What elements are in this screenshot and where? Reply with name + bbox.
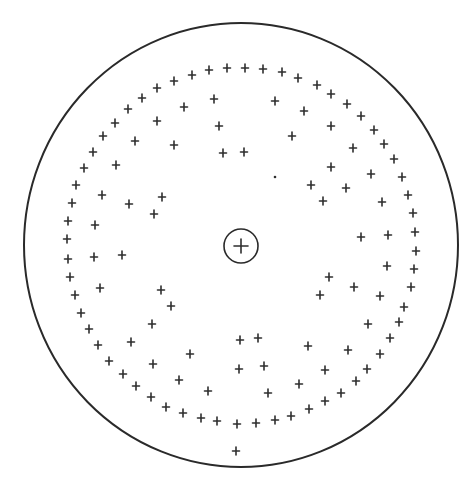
cross-icon	[132, 137, 139, 145]
cross-icon	[408, 283, 415, 291]
cross-icon	[384, 262, 391, 270]
cross-icon	[301, 107, 308, 115]
cross-icon	[413, 247, 420, 255]
cross-icon	[151, 210, 158, 218]
cross-icon	[149, 320, 156, 328]
cross-icon	[365, 320, 372, 328]
cross-icon	[100, 132, 107, 140]
cross-icon	[328, 122, 335, 130]
cross-icon	[387, 334, 394, 342]
circular-diagram	[0, 0, 467, 488]
cross-icon	[343, 184, 350, 192]
cross-icon	[159, 193, 166, 201]
cross-icon	[308, 181, 315, 189]
cross-icon	[171, 77, 178, 85]
cross-icon	[180, 409, 187, 417]
cross-icon	[95, 341, 102, 349]
cross-icon	[106, 357, 113, 365]
cross-icon	[237, 336, 244, 344]
cross-icon	[305, 342, 312, 350]
dot-markers	[274, 176, 277, 179]
cross-icon	[358, 112, 365, 120]
cross-icon	[255, 334, 262, 342]
cross-icon	[351, 283, 358, 291]
cross-icon	[364, 365, 371, 373]
cross-icon	[410, 209, 417, 217]
cross-icon	[272, 416, 279, 424]
cross-icon	[314, 81, 321, 89]
cross-icon	[72, 291, 79, 299]
cross-icon	[344, 100, 351, 108]
cross-icon	[150, 360, 157, 368]
cross-icon	[353, 377, 360, 385]
cross-icon	[112, 119, 119, 127]
cross-icon	[391, 155, 398, 163]
cross-icon	[345, 346, 352, 354]
cross-icon	[224, 64, 231, 72]
cross-icon	[154, 84, 161, 92]
cross-icon	[126, 200, 133, 208]
cross-icon	[97, 284, 104, 292]
cross-icon	[242, 64, 249, 72]
cross-icon	[338, 389, 345, 397]
cross-icon	[128, 338, 135, 346]
cross-icon	[67, 273, 74, 281]
cross-icon	[181, 103, 188, 111]
cross-icon	[168, 302, 175, 310]
cross-icon	[211, 95, 218, 103]
cross-icon	[385, 231, 392, 239]
cross-icon	[381, 140, 388, 148]
cross-icon	[358, 233, 365, 241]
cross-icon	[189, 71, 196, 79]
cross-icon	[405, 191, 412, 199]
cross-icon	[120, 370, 127, 378]
cross-icon	[368, 170, 375, 178]
cross-icon	[317, 291, 324, 299]
cross-icon	[220, 149, 227, 157]
cross-icon	[377, 292, 384, 300]
cross-icon	[377, 350, 384, 358]
cross-icon	[236, 365, 243, 373]
cross-icon	[205, 387, 212, 395]
cross-icon	[99, 191, 106, 199]
cross-icon	[90, 148, 97, 156]
isolated-markers	[233, 447, 240, 455]
center-marker	[224, 229, 258, 263]
cross-icon	[81, 164, 88, 172]
cross-icon	[401, 303, 408, 311]
dot-icon	[274, 176, 277, 179]
cross-icon	[113, 161, 120, 169]
cross-icon	[328, 163, 335, 171]
cross-icon	[396, 318, 403, 326]
cross-icon	[233, 447, 240, 455]
cross-icon	[163, 403, 170, 411]
cross-icon	[326, 273, 333, 281]
cross-icon	[176, 376, 183, 384]
cross-icon	[288, 412, 295, 420]
cross-icon	[119, 251, 126, 259]
cross-icon	[295, 74, 302, 82]
cross-icon	[234, 420, 241, 428]
cross-icon	[399, 173, 406, 181]
cross-icon	[272, 97, 279, 105]
circled-plus-icon	[234, 239, 248, 253]
cross-icon	[139, 94, 146, 102]
cross-icon	[412, 228, 419, 236]
cross-icon	[158, 286, 165, 294]
cross-icon	[206, 66, 213, 74]
cross-icon	[154, 117, 161, 125]
cross-icon	[65, 217, 72, 225]
cross-icon	[216, 122, 223, 130]
cross-icon	[125, 105, 132, 113]
cross-icon	[289, 132, 296, 140]
cross-icon	[171, 141, 178, 149]
cross-icon	[322, 366, 329, 374]
cross-icon	[261, 362, 268, 370]
cross-icon	[279, 68, 286, 76]
cross-icon	[296, 380, 303, 388]
cross-icon	[65, 255, 72, 263]
cross-icon	[187, 350, 194, 358]
cross-icon	[214, 417, 221, 425]
cross-icon	[148, 393, 155, 401]
cross-icon	[73, 181, 80, 189]
